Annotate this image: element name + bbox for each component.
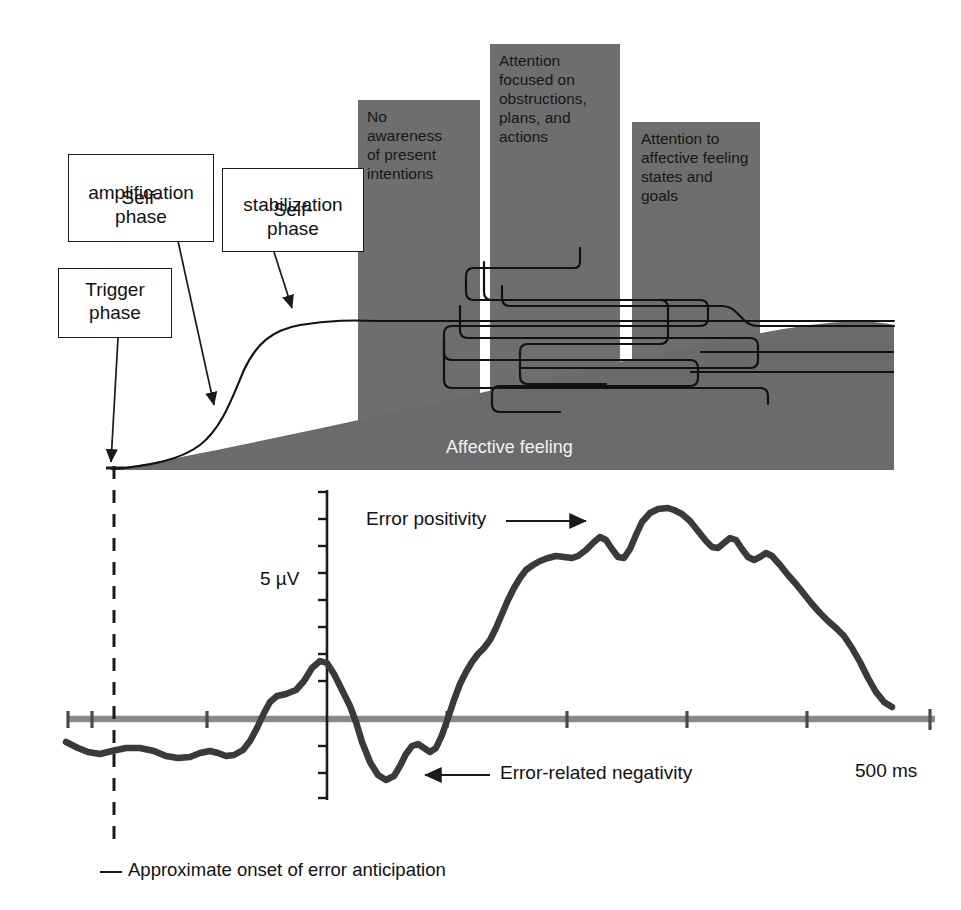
leader-trigger [111, 338, 118, 462]
phase-label-self-stabilization-line2: stabilization [222, 194, 364, 216]
erp-x-axis-label: 500 ms [855, 760, 917, 782]
erp-y-axis-label: 5 µV [260, 568, 299, 590]
attention-column-1-caption: No awareness of present intentions [367, 108, 477, 184]
phase-label-trigger-line2: phase [58, 302, 172, 324]
error-related-negativity-label: Error-related negativity [500, 762, 692, 784]
error-positivity-label: Error positivity [366, 508, 486, 530]
attention-column-3-caption: Attention to affective feeling states an… [641, 130, 761, 206]
affective-feeling-caption: Affective feeling [446, 437, 573, 458]
onset-annotation-label: Approximate onset of error anticipation [128, 859, 446, 881]
erp-waveform-trace [66, 508, 892, 780]
leader-self-stabilization [274, 252, 292, 308]
phase-label-self-stabilization-line3: phase [222, 218, 364, 240]
phase-label-self-amplification-line2: amplification [68, 182, 214, 204]
leader-self-amplification [178, 241, 214, 405]
erp-y-ticks [318, 492, 327, 798]
attention-column-2-caption: Attention focused on obstructions, plans… [499, 52, 617, 147]
phase-label-trigger-text: Trigger [85, 279, 144, 301]
erp-panel [66, 466, 935, 872]
phase-label-self-amplification-line3: phase [68, 206, 214, 228]
